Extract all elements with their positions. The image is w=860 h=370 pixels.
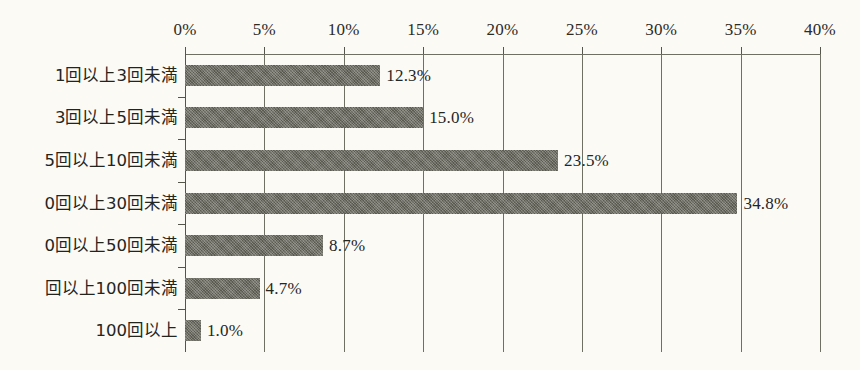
x-tick-label: 5% — [229, 20, 299, 40]
gridline — [820, 54, 821, 352]
bar — [185, 320, 201, 341]
category-label: 0回以上50回未満 — [0, 235, 178, 256]
x-tick-label: 15% — [388, 20, 458, 40]
category-label: 5回以上10回未満 — [0, 150, 178, 171]
category-tick-mark — [178, 224, 185, 225]
bar-value-label: 4.7% — [266, 278, 302, 299]
category-tick-mark — [178, 309, 185, 310]
x-tick-label: 20% — [468, 20, 538, 40]
x-tick-mark — [264, 47, 265, 54]
x-tick-mark — [582, 47, 583, 54]
bar-row: 8.7% — [185, 235, 820, 256]
bar-value-label: 1.0% — [207, 320, 243, 341]
x-tick-label: 35% — [706, 20, 776, 40]
bar-value-label: 12.3% — [386, 65, 431, 86]
category-label: 100回以上 — [0, 320, 178, 341]
bar-row: 15.0% — [185, 107, 820, 128]
category-tick-mark — [178, 97, 185, 98]
category-label: 3回以上5回未満 — [0, 107, 178, 128]
bar — [185, 65, 380, 86]
x-tick-label: 30% — [626, 20, 696, 40]
bar — [185, 193, 737, 214]
bar-value-label: 8.7% — [329, 235, 365, 256]
x-tick-label: 25% — [547, 20, 617, 40]
bar-row: 4.7% — [185, 278, 820, 299]
x-tick-label: 40% — [785, 20, 855, 40]
x-tick-label: 10% — [309, 20, 379, 40]
x-tick-mark — [503, 47, 504, 54]
horizontal-bar-chart: 0%5%10%15%20%25%30%35%40% 1回以上3回未満3回以上5回… — [0, 0, 860, 370]
bar-row: 12.3% — [185, 65, 820, 86]
category-label: 1回以上3回未満 — [0, 65, 178, 86]
category-label: 0回以上30回未満 — [0, 193, 178, 214]
bar-value-label: 23.5% — [564, 150, 609, 171]
x-tick-mark — [661, 47, 662, 54]
category-axis-labels: 1回以上3回未満3回以上5回未満5回以上10回未満0回以上30回未満0回以上50… — [0, 54, 178, 352]
bar-row: 23.5% — [185, 150, 820, 171]
bar — [185, 235, 323, 256]
plot-area: 12.3%15.0%23.5%34.8%8.7%4.7%1.0% — [185, 54, 820, 352]
category-tick-mark — [178, 139, 185, 140]
bar-row: 34.8% — [185, 193, 820, 214]
bar-row: 1.0% — [185, 320, 820, 341]
bar-value-label: 15.0% — [429, 107, 474, 128]
bar — [185, 107, 423, 128]
bar — [185, 278, 260, 299]
x-tick-mark — [741, 47, 742, 54]
x-tick-mark — [820, 47, 821, 54]
x-tick-mark — [344, 47, 345, 54]
x-tick-label: 0% — [150, 20, 220, 40]
category-tick-mark — [178, 267, 185, 268]
x-tick-mark — [423, 47, 424, 54]
category-tick-mark — [178, 182, 185, 183]
x-tick-mark — [185, 47, 186, 54]
bar-value-label: 34.8% — [743, 193, 788, 214]
bar — [185, 150, 558, 171]
category-label: 回以上100回未満 — [0, 278, 178, 299]
